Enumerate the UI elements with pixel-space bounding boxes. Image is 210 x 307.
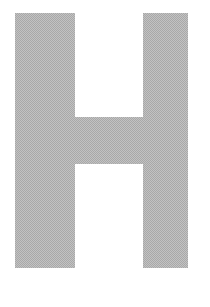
letter-h-crossbar <box>15 117 188 164</box>
letter-h-canvas <box>0 0 210 307</box>
